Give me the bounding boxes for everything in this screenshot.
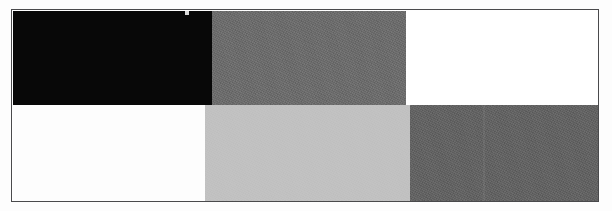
grain-overlay <box>410 105 599 202</box>
patch-top-left: black <box>13 11 212 105</box>
vertical-seam-artifact <box>483 105 485 202</box>
patch-bottom-left: white <box>13 105 205 202</box>
patch-value: black <box>12 10 13 11</box>
page-root: Grayscale tone patch chart Rectangular f… <box>0 0 612 211</box>
patch-bottom-right: dark gray <box>410 105 599 202</box>
patch-top-right: white <box>406 11 599 105</box>
patch-value: white <box>405 10 406 11</box>
patch-value: medium gray <box>211 10 212 11</box>
patch-bottom-center: light gray <box>205 105 410 202</box>
patch-value: light gray <box>204 104 205 105</box>
patch-value: white <box>12 104 13 105</box>
edge-notch-artifact <box>185 11 189 15</box>
grain-overlay <box>212 11 406 105</box>
patch-chart-frame: black medium gray white white light gray <box>11 9 599 202</box>
patch-value: dark gray <box>409 104 410 105</box>
patch-grid: black medium gray white white light gray <box>12 10 598 201</box>
patch-top-center: medium gray <box>212 11 406 105</box>
grain-overlay <box>205 105 410 202</box>
